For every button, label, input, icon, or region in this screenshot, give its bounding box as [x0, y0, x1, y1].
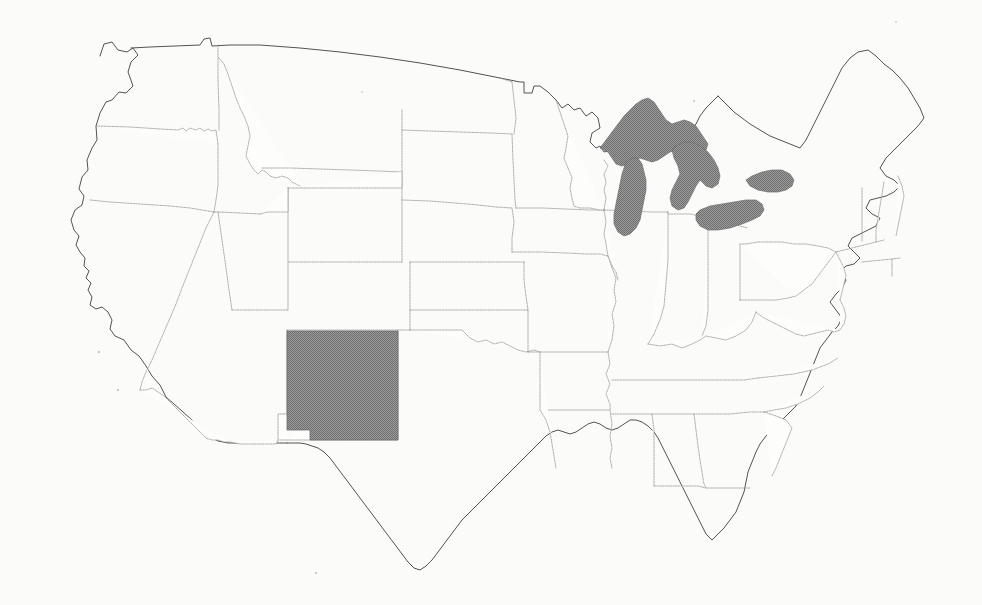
border-ga-sc-nc	[764, 412, 792, 476]
lake-michigan	[614, 158, 646, 236]
border-id-ut-nv	[260, 188, 288, 214]
border-nh-me	[896, 176, 904, 236]
border-al-ga	[694, 414, 706, 488]
border-wa-or	[96, 126, 218, 144]
speck	[361, 91, 363, 93]
lake-erie	[696, 200, 764, 230]
border-ca-az	[140, 388, 230, 442]
border-in-oh	[702, 218, 708, 336]
border-va-wv-md	[756, 312, 840, 336]
speck	[895, 21, 897, 23]
border-vt-nh	[876, 182, 884, 242]
border-ok-tx	[410, 330, 540, 352]
border-ny-vt-ma-ct	[836, 240, 884, 252]
speck	[693, 100, 695, 102]
border-ms-al	[652, 414, 654, 486]
border-nd-mn	[512, 82, 516, 134]
border-sd-ne	[402, 200, 512, 208]
speck	[315, 572, 317, 574]
border-mi-wi-lakes	[604, 160, 608, 210]
border-ks-mo	[524, 262, 528, 310]
lake-huron	[670, 142, 720, 210]
border-al-ga-fl	[654, 486, 750, 488]
state-borders-group	[90, 45, 904, 488]
border-in-ky	[648, 336, 706, 348]
map-canvas	[0, 0, 982, 605]
highlighted-state-new-mexico	[287, 331, 398, 440]
border-nc-va	[758, 358, 838, 378]
border-ma-ct-ri	[862, 258, 900, 262]
us-outline-map	[0, 0, 982, 605]
national-outline-group	[71, 38, 924, 570]
border-nv-ca	[140, 212, 214, 390]
border-oh-wv-ky	[706, 312, 756, 340]
border-tn-ms-al-ga	[612, 412, 764, 414]
border-nj-de-md	[840, 300, 846, 330]
national-outline	[71, 42, 287, 443]
great-lakes-group	[600, 98, 794, 236]
border-az-nm	[278, 330, 287, 440]
border-ky-tn	[612, 378, 758, 380]
border-il-in	[648, 212, 668, 344]
border-or-id	[214, 144, 218, 212]
border-nd-sd	[402, 130, 512, 134]
lake-ontario	[746, 170, 794, 192]
speck	[98, 351, 100, 353]
northeast-outline	[287, 50, 924, 570]
border-sd-mn-ia	[512, 134, 516, 208]
border-id-nv-ut	[214, 212, 260, 214]
speck	[117, 389, 119, 391]
border-or-ca-nv	[90, 200, 214, 212]
border-nv-ut	[218, 212, 232, 310]
border-az-mx	[230, 440, 278, 444]
border-ne-ia-mo	[512, 208, 514, 252]
border-ut-wy	[288, 172, 402, 188]
border-pa-ny	[740, 242, 836, 296]
border-wv-pa	[740, 296, 796, 300]
border-ia-mo	[512, 252, 608, 256]
